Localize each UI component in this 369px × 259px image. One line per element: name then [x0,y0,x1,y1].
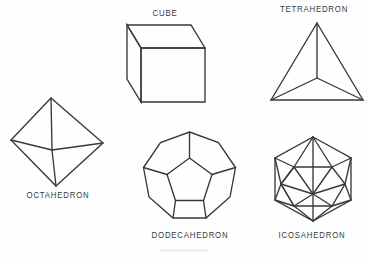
icosahedron-edge-right-upper [345,158,351,184]
dodecahedron-svg [141,130,238,228]
icosahedron-edge-ur [332,158,351,167]
icosahedron-edge-left-upper [275,158,281,184]
icosahedron-edge-bottom-b [313,206,332,221]
page-artifact-mark [160,249,208,252]
icosahedron-diagram [269,134,357,224]
octahedron-outline [11,98,103,186]
icosahedron-edge-left-lower [275,184,281,200]
octahedron-diagram [8,96,108,188]
icosahedron-edge-innerll-center [294,194,313,206]
cube-left-face [127,25,141,102]
octahedron-label: OCTAHEDRON [3,190,112,200]
icosahedron-edge-innerul-center [294,167,313,194]
dodecahedron-label: DODECAHEDRON [128,230,252,240]
dodecahedron-spoke-right [212,168,236,175]
dodecahedron-center-face [167,158,212,201]
icosahedron-edge-right-lower [345,184,351,200]
icosahedron-edge-bottom-a [294,206,313,221]
icosahedron-edge-innerlr-center [313,194,332,206]
dodecahedron-spoke-left [144,168,168,175]
dodecahedron-spoke-bottom-left [173,201,176,219]
cube-svg [119,22,213,106]
cube-diagram [119,22,213,106]
octahedron-edge-right-center [52,143,103,150]
icosahedron-edge-ul [275,158,294,167]
octahedron-edge-bottom-center [52,150,56,186]
icosahedron-svg [269,134,357,224]
cube-front-face [141,48,205,102]
icosahedron-label: ICOSAHEDRON [257,230,366,240]
octahedron-edge-top-center [51,98,52,150]
tetrahedron-diagram [268,20,366,104]
dodecahedron-diagram [141,130,238,228]
cube-label: CUBE [120,8,210,18]
octahedron-svg [8,96,108,188]
icosahedron-edge-innerur-center [313,167,332,194]
tetrahedron-svg [268,20,366,104]
tetrahedron-label: TETRAHEDRON [262,4,365,14]
platonic-solids-figure: OCTAHEDRON CUBE TETRAHEDRON [0,0,369,259]
icosahedron-edge-innerul-midleft [281,167,294,184]
dodecahedron-spoke-bottom-right [204,201,207,219]
octahedron-edge-left-center [11,140,52,150]
